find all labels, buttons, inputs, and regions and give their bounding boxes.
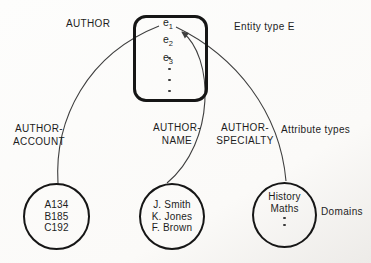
domain-circle-account: A134 B185 C192 bbox=[23, 183, 90, 250]
domain-value: History bbox=[268, 191, 301, 203]
domain-value: F. Brown bbox=[152, 222, 193, 234]
entity-type-label: Entity type E bbox=[234, 21, 295, 34]
attribute-label-line: AUTHOR- bbox=[221, 122, 269, 133]
domain-value: C192 bbox=[44, 222, 69, 234]
entity-subscript: 2 bbox=[169, 39, 173, 48]
attribute-label-line: AUTHOR- bbox=[15, 123, 63, 134]
domain-value: K. Jones bbox=[152, 211, 193, 223]
entity-subscript: 1 bbox=[169, 22, 173, 31]
attribute-label-author-account: AUTHOR- ACCOUNT bbox=[10, 123, 68, 148]
entity-item: e1 bbox=[147, 16, 189, 33]
domain-value: Maths bbox=[270, 203, 298, 215]
ellipsis-dot bbox=[168, 79, 170, 81]
domain-ellipsis-dots bbox=[283, 217, 285, 231]
entity-attribute-diagram: AUTHOR Entity type E e1 e2 e3 AUTHOR- AC… bbox=[0, 0, 371, 263]
domains-label: Domains bbox=[321, 206, 363, 219]
entity-ellipsis-dots bbox=[168, 57, 171, 101]
attribute-label-line: SPECIALTY bbox=[216, 135, 273, 146]
attribute-label-line: NAME bbox=[162, 135, 192, 146]
attribute-types-label: Attribute types bbox=[281, 124, 350, 137]
author-label: AUTHOR bbox=[66, 18, 110, 31]
ellipsis-dot bbox=[283, 217, 285, 219]
entity-item: e2 bbox=[147, 33, 189, 50]
attribute-label-line: ACCOUNT bbox=[13, 136, 65, 147]
domain-value: J. Smith bbox=[153, 199, 191, 211]
attribute-label-author-specialty: AUTHOR- SPECIALTY bbox=[214, 122, 276, 147]
ellipsis-dot bbox=[168, 68, 170, 70]
domain-circle-name: J. Smith K. Jones F. Brown bbox=[139, 183, 205, 250]
domain-value: B185 bbox=[44, 211, 68, 223]
attribute-label-author-name: AUTHOR- NAME bbox=[148, 122, 206, 147]
ellipsis-dot bbox=[168, 90, 170, 92]
domain-value: A134 bbox=[44, 199, 68, 211]
ellipsis-dot bbox=[283, 224, 285, 226]
attribute-label-line: AUTHOR- bbox=[153, 122, 201, 133]
domain-circle-specialty: History Maths bbox=[252, 182, 317, 248]
ellipsis-dot bbox=[168, 57, 170, 59]
